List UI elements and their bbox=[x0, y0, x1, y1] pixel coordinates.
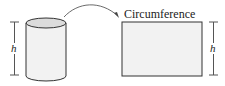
cylinder-height-label: h bbox=[11, 42, 17, 54]
cylinder-unrolled-diagram: h Circumference h bbox=[0, 0, 225, 86]
rectangle-height-label: h bbox=[210, 42, 216, 54]
cylinder bbox=[26, 18, 66, 81]
unrolled-rectangle bbox=[122, 22, 202, 76]
circumference-label: Circumference bbox=[124, 7, 195, 21]
unroll-arrow bbox=[64, 5, 119, 18]
